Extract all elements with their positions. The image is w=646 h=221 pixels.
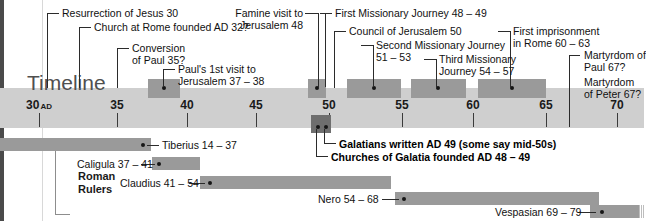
callout-galatia-founded: Churches of Galatia founded AD 48 – 49 [331,151,530,163]
ruler-label-tiberius: Tiberius 14 – 37 [162,139,237,151]
ruler-rule-tiberius [147,145,159,146]
ruler-bar-claudius[interactable] [200,176,391,189]
tick-mark-30 [39,113,40,127]
leader-line-galatians-written-h [324,143,336,144]
axis-band [42,88,644,128]
leader-line-resurrection-h [47,13,59,14]
tick-mark-65 [546,113,547,127]
tick-mark-35 [117,113,118,127]
leader-line-famine-v [318,13,319,87]
ruler-dot-nero [402,197,406,201]
ruler-label-vespasian: Vespasian 69 – 79 [495,206,581,218]
tick-label-35: 35 [110,99,123,111]
leader-line-galatia-founded-h [316,156,328,157]
leader-line-pauls-visit-v [163,69,164,87]
leader-line-third-journey-v [436,59,437,87]
leader-line-council-v [334,31,335,88]
tick-label-60: 60 [466,99,479,111]
leader-line-resurrection-v [47,13,48,88]
ruler-bar-nero[interactable] [395,192,599,205]
tick-mark-55 [402,113,403,127]
ruler-label-nero: Nero 54 – 68 [318,193,379,205]
leader-line-conversion-paul-h [117,48,129,49]
tick-label-45: 45 [249,99,262,111]
ruler-bar-vespasian-open-end [639,205,644,218]
callout-first-imprisonment-in-rome: First imprisonment in Rome 60 – 63 [513,25,599,49]
ruler-dot-tiberius [141,143,145,147]
leader-line-first-journey-h [320,13,332,14]
roman-rulers-title: Roman Rulers [78,170,115,196]
tick-mark-70 [617,113,618,127]
tick-mark-45 [256,113,257,127]
leader-line-second-journey-v [373,45,374,87]
tick-label-65: 65 [539,99,552,111]
callout-council-of-jerusalem: Council of Jerusalem 50 [349,25,462,37]
callout-famine-visit-to-jerusalem: Famine visit to Jerusalem 48 [234,7,303,31]
tick-mark-40 [187,113,188,127]
leader-line-imprisonment-h [498,31,510,32]
leader-line-pauls-visit-h [163,69,175,70]
callout-first-missionary-journey: First Missionary Journey 48 – 49 [335,7,487,19]
leader-line-church-rome-h [79,27,91,28]
leader-line-martyrdom-paul-h [569,55,580,56]
leader-line-martyrdom-paul-v [569,55,570,127]
callout-third-missionary-journey: Third Missionary Journey 54 – 57 [439,53,516,77]
leader-line-conversion-paul-v [117,48,118,88]
leader-line-second-journey-h [361,45,373,46]
tick-label-40: 40 [180,99,193,111]
ruler-label-caligula: Caligula 37 – 41 [77,158,153,170]
ruler-dot-caligula [157,162,161,166]
leader-line-council-h [334,31,346,32]
ruler-bar-tiberius[interactable] [0,138,151,151]
leader-line-first-journey-v [325,13,326,87]
ruler-rule-nero [382,199,399,200]
ruler-dot-vespasian [600,210,604,214]
ruler-label-claudius: Claudius 41 – 54 [120,177,199,189]
event-box-galatia[interactable] [311,115,331,133]
ruler-dot-claudius [208,181,212,185]
ruler-bar-vespasian[interactable] [590,205,644,218]
callout-martyrdom-of-peter: Martyrdom of Peter 67? [584,76,641,100]
tick-label-70: 70 [610,99,623,111]
page-title: Timeline [27,72,106,93]
callout-galatians-written: Galatians written AD 49 (some say mid-50… [339,138,556,150]
callout-pauls-first-visit-to-jerusalem: Paul's 1st visit to Jerusalem 37 – 38 [178,63,264,87]
tick-label-55: 55 [395,99,408,111]
leader-line-church-rome-v [79,27,80,88]
leader-line-galatia-founded-v [316,129,317,156]
leader-line-galatians-written-v [324,129,325,143]
leader-line-famine-h [305,13,319,14]
callout-church-at-rome-founded: Church at Rome founded AD 32? [94,21,249,33]
callout-martyrdom-of-paul: Martyrdom of Paul 67? [584,49,646,73]
tick-mark-60 [473,113,474,127]
tick-label-30: 30AD [26,99,52,113]
callout-resurrection-of-jesus: Resurrection of Jesus 30 [62,7,178,19]
tick-label-50: 50 [322,99,335,111]
